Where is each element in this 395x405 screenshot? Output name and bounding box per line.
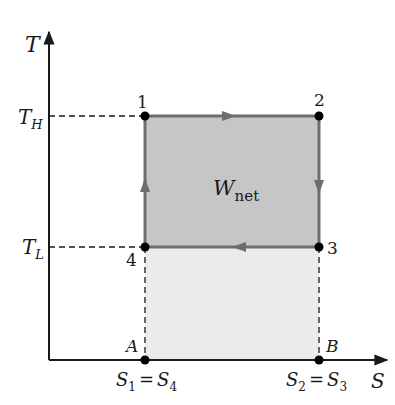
base-point-a — [141, 356, 150, 365]
y-axis-label: T — [25, 32, 42, 57]
point-label-1: 1 — [137, 92, 148, 112]
point-label-a: A — [124, 336, 138, 356]
heat-rejected-area — [145, 247, 319, 360]
point-label-2: 2 — [314, 90, 325, 110]
point-label-b: B — [325, 336, 339, 356]
s2-eq-s3-label: S2=S3 — [286, 369, 347, 394]
tl-label: TL — [22, 235, 44, 262]
point-label-3: 3 — [327, 238, 338, 258]
state-point-2 — [315, 112, 324, 121]
point-label-4: 4 — [126, 250, 137, 270]
state-point-3 — [315, 243, 324, 252]
base-point-b — [315, 356, 324, 365]
ts-diagram: T S TH TL 1 2 3 4 A B Wnet S1=S4 S2=S3 — [0, 0, 395, 405]
state-point-1 — [141, 112, 150, 121]
state-point-4 — [141, 243, 150, 252]
th-label: TH — [18, 105, 43, 132]
s1-eq-s4-label: S1=S4 — [116, 369, 177, 394]
x-axis-label: S — [371, 369, 385, 393]
